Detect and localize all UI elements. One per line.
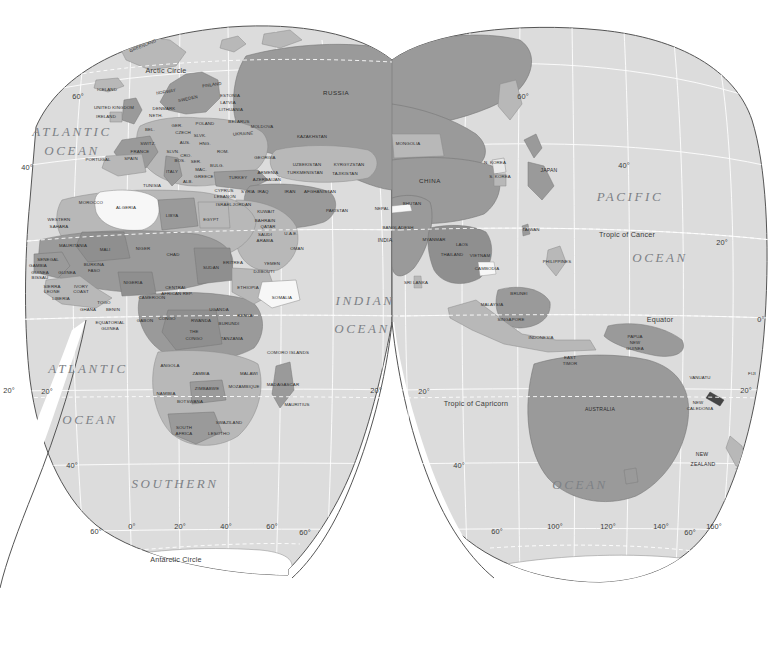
country-label: KAZAKHSTAN	[297, 134, 327, 139]
country-label: LEBANON	[214, 194, 236, 199]
country-label: BEL.	[145, 127, 155, 132]
country-label: QATAR	[260, 224, 275, 229]
world-map: ATLANTICOCEANATLANTICOCEANSOUTHERNINDIAN…	[0, 0, 781, 650]
country-label: NEW	[693, 400, 704, 405]
country-label: KENYA	[237, 313, 252, 318]
country-label: AFGHANISTAN	[304, 189, 336, 194]
ocean-label: ATLANTIC	[47, 361, 128, 376]
country-label: CYPRUS	[214, 188, 233, 193]
ocean-label: OCEAN	[334, 321, 390, 336]
country-label: CALEDONIA	[687, 406, 713, 411]
country-label: MOLDOVA	[251, 124, 273, 129]
country-label: BOTSWANA	[177, 399, 203, 404]
country-label: SRI LANKA	[404, 280, 428, 285]
graticule-label: 40°	[618, 161, 629, 170]
country-label: MAC.	[195, 167, 206, 172]
country-label: PORTUGAL	[85, 157, 110, 162]
country-label: SENEGAL	[37, 257, 59, 262]
ocean-label: PACIFIC	[596, 189, 663, 204]
country-label: FRANCE	[131, 149, 150, 154]
country-label: NIGERIA	[124, 280, 143, 285]
country-label: EGYPT	[203, 217, 219, 222]
country-label: KYRGYZSTAN	[334, 162, 365, 167]
country-label: UNITED KINGDOM	[94, 105, 134, 110]
country-label: SER.	[191, 159, 202, 164]
country-label: NEPAL	[375, 206, 390, 211]
country-label: ZAMBIA	[192, 371, 209, 376]
country-label: CONGO	[185, 336, 203, 341]
country-label: LITHUANIA	[219, 107, 243, 112]
country-label: CHAD	[167, 252, 180, 257]
country-label: U.A.E.	[284, 231, 297, 236]
graticule-label: 60°	[299, 528, 310, 537]
country-label: MADAGASCAR	[267, 382, 299, 387]
country-label: RWANDA	[191, 318, 211, 323]
reference-line-label: Equator	[647, 315, 674, 324]
country-label: LIBERIA	[52, 296, 70, 301]
country-label: FASO	[88, 268, 101, 273]
country-label: GUINEA	[58, 270, 76, 275]
graticule-label: 20°	[716, 238, 727, 247]
country-label: BOS.	[175, 158, 186, 163]
country-label: INDONESIA	[528, 335, 553, 340]
country-label: SOUTH	[176, 425, 192, 430]
country-label: SLVK.	[194, 133, 207, 138]
country-label: CHINA	[419, 177, 441, 184]
country-label: COAST	[73, 289, 89, 294]
country-label: NAMIBIA	[157, 391, 176, 396]
country-label: MOROCCO	[79, 200, 104, 205]
country-label: BAHRAIN	[255, 218, 275, 223]
country-label: GEORGIA	[254, 155, 275, 160]
country-label: GREECE	[194, 174, 213, 179]
country-label: ESTONIA	[220, 93, 240, 98]
country-label: CAMBODIA	[475, 266, 499, 271]
country-label: KUWAIT	[257, 209, 275, 214]
ocean-label: OCEAN	[632, 250, 688, 265]
reference-line-label: Tropic of Cancer	[599, 230, 655, 239]
country-label: INDIA	[378, 237, 393, 243]
graticule-label: 60°	[684, 528, 695, 537]
country-label: DJIBOUTI	[254, 269, 275, 274]
country-label: NETH.	[149, 113, 163, 118]
country-label: BENIN	[106, 307, 120, 312]
graticule-label: 140°	[653, 522, 669, 531]
country-label: TANZANIA	[221, 336, 243, 341]
country-label: UGANDA	[209, 307, 229, 312]
country-label: TURKEY	[229, 175, 248, 180]
country-label: VANUATU	[689, 375, 710, 380]
country-label: ICELAND	[97, 87, 117, 92]
country-label: BULG.	[210, 163, 224, 168]
country-label: AFRICA	[176, 431, 193, 436]
country-label: LESOTHO	[208, 431, 230, 436]
country-label: LAOS	[456, 242, 468, 247]
country-label: BRUNEI	[510, 291, 527, 296]
country-label: BISSAU	[32, 275, 49, 280]
country-label: BELARUS	[228, 119, 249, 124]
country-label: NEW	[696, 451, 708, 457]
ocean-label: OCEAN	[552, 477, 608, 492]
country-label: NIGER	[136, 246, 151, 251]
graticule-label: 60°	[266, 522, 277, 531]
graticule-label: 20°	[41, 387, 52, 396]
graticule-label: 40°	[21, 163, 32, 172]
country-label: BANGLADESH	[382, 225, 413, 230]
country-label: SAHARA	[50, 224, 69, 229]
country-label: CONGO	[158, 316, 176, 321]
country-label: SYRIA	[241, 189, 255, 194]
graticule-label: 40°	[220, 522, 231, 531]
country-label: SLVN.	[167, 149, 180, 154]
graticule-label: 160°	[706, 522, 722, 531]
graticule-label: 120°	[600, 522, 616, 531]
country-label: EQUATORIAL	[95, 320, 125, 325]
country-label: VIETNAM	[470, 253, 491, 258]
country-label: TOGO	[97, 300, 111, 305]
country-label: S. KOREA	[489, 174, 511, 179]
country-label: MALI	[100, 247, 111, 252]
country-label: AZERBAIJAN	[253, 177, 281, 182]
country-label: ANGOLA	[160, 363, 179, 368]
country-label: AFRICAN REP.	[161, 291, 193, 296]
country-label: SOMALIA	[272, 295, 292, 300]
country-label: ERITREA	[223, 260, 243, 265]
country-label: SWAZILAND	[216, 420, 243, 425]
country-label: SAUDI	[258, 232, 272, 237]
